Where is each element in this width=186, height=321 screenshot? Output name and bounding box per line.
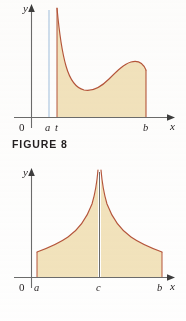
x-tick-label-a: a	[34, 282, 39, 293]
y-axis-label: y	[22, 2, 28, 14]
shaded-area-region-right	[101, 176, 162, 277]
y-axis-arrowhead	[28, 168, 35, 176]
x-axis-label: x	[169, 120, 175, 132]
x-tick-label-c: c	[96, 282, 101, 293]
figure-9-chart: y x 0 a c b	[0, 160, 186, 300]
y-axis-arrowhead	[28, 4, 35, 12]
figure-8-caption: FIGURE 8	[12, 138, 68, 150]
x-tick-label-t: t	[55, 122, 59, 133]
x-axis-label: x	[169, 280, 175, 292]
x-tick-label-b: b	[157, 282, 162, 293]
x-tick-label-b: b	[143, 122, 148, 133]
figure-8: y x 0 a t b FIGURE 8	[0, 0, 186, 160]
figure-9: y x 0 a c b FIGURE 9	[0, 160, 186, 321]
y-axis-label: y	[22, 166, 28, 178]
origin-label: 0	[19, 281, 25, 293]
shaded-area-region	[57, 11, 146, 117]
shaded-area-region	[37, 176, 98, 277]
x-tick-label-a: a	[45, 122, 50, 133]
origin-label: 0	[19, 121, 25, 133]
figures-page: y x 0 a t b FIGURE 8	[0, 0, 186, 321]
figure-8-chart: y x 0 a t b	[0, 0, 186, 140]
